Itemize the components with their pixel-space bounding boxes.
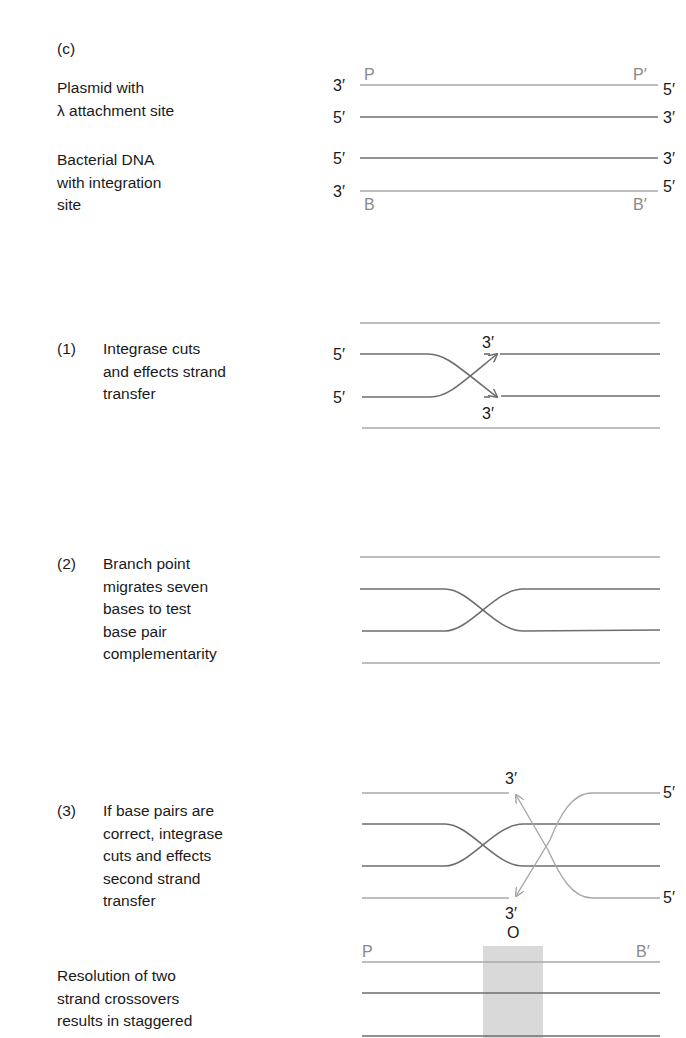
end-label: 5′ xyxy=(663,81,675,98)
end-label: 5′ xyxy=(663,784,675,801)
end-label: 3′ xyxy=(482,405,494,422)
site-label-b: B xyxy=(364,196,375,213)
site-label-b-prime: B′ xyxy=(636,943,650,960)
end-label: 5′ xyxy=(333,150,345,167)
overlap-region xyxy=(483,946,543,1038)
recombination-diagram: 3′ 5′ 5′ 3′ 5′ 3′ 3′ 5′ P P′ B B′ 5′ 5′ … xyxy=(0,0,686,1038)
end-label: 3′ xyxy=(505,905,517,922)
end-label: 3′ xyxy=(505,770,517,787)
end-label: 3′ xyxy=(663,150,675,167)
site-label-p-prime: P′ xyxy=(633,66,647,83)
step-2-diagram xyxy=(360,557,660,663)
site-label-p: P xyxy=(362,943,373,960)
end-label: 5′ xyxy=(333,389,345,406)
end-label: 5′ xyxy=(663,178,675,195)
end-label: 5′ xyxy=(333,346,345,363)
step-1-diagram xyxy=(360,323,660,428)
end-label: 3′ xyxy=(482,334,494,351)
overlap-label: O xyxy=(507,924,519,941)
resolution-diagram xyxy=(362,946,660,1038)
end-label: 5′ xyxy=(663,889,675,906)
intro-strands xyxy=(360,85,658,191)
step-3-diagram xyxy=(362,793,660,898)
end-label: 3′ xyxy=(663,109,675,126)
site-label-p: P xyxy=(364,66,375,83)
site-label-b-prime: B′ xyxy=(633,196,647,213)
end-label: 3′ xyxy=(333,77,345,94)
end-label: 3′ xyxy=(333,183,345,200)
end-label: 5′ xyxy=(333,109,345,126)
